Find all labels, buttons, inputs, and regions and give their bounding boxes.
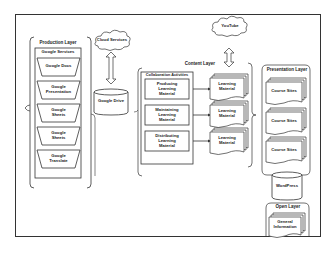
learning-material-3: Learning Material bbox=[212, 136, 242, 146]
google-services-title: Google Services bbox=[35, 50, 81, 55]
cloud-services-label: Cloud Services bbox=[96, 38, 128, 43]
course-sites-1: Course Sites bbox=[268, 89, 300, 94]
google-sheets-label: Google Sheets bbox=[48, 108, 69, 118]
general-information-label: General Information bbox=[270, 220, 300, 230]
maintaining-learning-material: Maintaining Learning Material bbox=[150, 108, 184, 122]
google-presentation-label: Google Presentation bbox=[40, 85, 77, 95]
youtube-label: YouTube bbox=[215, 24, 245, 29]
course-sites-3: Course Sites bbox=[268, 148, 300, 153]
learning-material-2: Learning Material bbox=[212, 109, 242, 119]
presentation-layer-title: Presentation Layer bbox=[262, 67, 312, 72]
distributing-learning-material: Distributing Learning Material bbox=[150, 134, 184, 148]
content-layer-title: Content Layer bbox=[180, 61, 220, 66]
production-layer-title: Production Layer bbox=[33, 40, 83, 45]
google-drive-label: Google Drive bbox=[97, 99, 125, 104]
google-docs-label: Google Docs bbox=[40, 64, 77, 69]
course-sites-2: Course Sites bbox=[268, 119, 300, 124]
google-sheets-label-2: Google Sheets bbox=[48, 131, 69, 141]
producing-learning-material: Producing Learning Material bbox=[150, 82, 184, 96]
diagram-lines bbox=[0, 0, 332, 255]
collaboration-activities-title: Collaboration Activities bbox=[141, 73, 193, 77]
learning-material-1: Learning Material bbox=[212, 82, 242, 92]
wordpress-label: WordPress bbox=[272, 184, 302, 189]
open-layer-title: Open Layer bbox=[268, 204, 308, 209]
google-translate-label: Google Translate bbox=[44, 154, 73, 164]
